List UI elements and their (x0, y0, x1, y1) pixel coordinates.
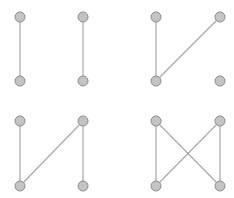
graph-node (151, 76, 161, 86)
graph-node (15, 76, 25, 86)
graph-node (215, 76, 225, 86)
graph-4 (151, 116, 225, 191)
graph-node (15, 181, 25, 191)
graph-node (78, 181, 88, 191)
graph-node (215, 116, 225, 126)
graph-node (215, 12, 225, 22)
graph-node (151, 181, 161, 191)
graph-node (151, 12, 161, 22)
graph-node (78, 116, 88, 126)
graph-2 (151, 12, 225, 86)
graph-edge (20, 121, 83, 186)
graph-node (15, 12, 25, 22)
graph-node (78, 12, 88, 22)
graph-3 (15, 116, 88, 191)
graph-node (78, 76, 88, 86)
graph-node (215, 181, 225, 191)
graph-node (15, 116, 25, 126)
graph-diagram (0, 0, 234, 198)
graph-node (151, 116, 161, 126)
graph-1 (15, 12, 88, 86)
graph-edge (156, 17, 220, 81)
